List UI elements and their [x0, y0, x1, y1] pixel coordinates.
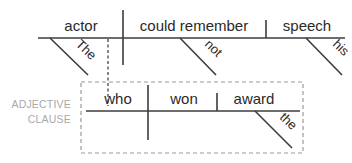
subject-modifier: The — [73, 36, 100, 62]
main-object: speech — [283, 17, 331, 34]
clause-object-modifier: the — [277, 109, 300, 132]
clause-object: award — [234, 90, 275, 107]
main-clause: actor could remember speech The not his — [38, 10, 352, 75]
adjective-clause: ADJECTIVE CLAUSE who won award the — [11, 82, 303, 153]
clause-verb: won — [169, 90, 198, 107]
adjective-clause-label-line2: CLAUSE — [28, 113, 71, 125]
clause-subject: who — [103, 90, 132, 107]
sentence-diagram: actor could remember speech The not his … — [0, 0, 352, 163]
object-modifier: his — [330, 36, 352, 59]
verb-modifier: not — [202, 36, 226, 60]
adjective-clause-label-line1: ADJECTIVE — [11, 98, 71, 110]
main-verb: could remember — [140, 17, 248, 34]
main-subject: actor — [64, 17, 97, 34]
